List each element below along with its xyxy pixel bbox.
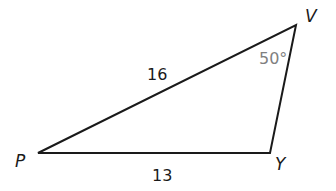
triangle-pyv xyxy=(38,25,296,153)
vertex-label-y: Y xyxy=(275,154,287,174)
side-length-py: 13 xyxy=(152,166,172,185)
angle-label-v: 50° xyxy=(259,49,287,68)
triangle-diagram: P Y V 16 13 50° xyxy=(0,0,336,191)
side-length-pv: 16 xyxy=(147,65,167,84)
vertex-label-v: V xyxy=(305,6,318,26)
vertex-label-p: P xyxy=(15,151,26,171)
